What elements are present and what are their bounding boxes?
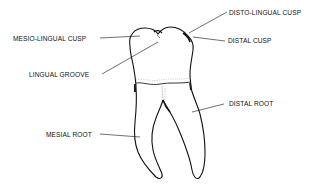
label-mesial-root: MESIAL ROOT [46,132,92,139]
cervical-line [136,82,191,85]
label-distal-cusp: DISTAL CUSP [228,38,272,45]
leader-disto-lingual-cusp [189,12,227,33]
tooth-diagram: DISTO-LINGUAL CUSP MESIO-LINGUAL CUSP DI… [0,0,316,194]
label-disto-lingual-cusp: DISTO-LINGUAL CUSP [229,10,301,17]
label-lingual-groove: LINGUAL GROOVE [29,72,89,79]
distal-root-outline [163,88,205,179]
mesial-root-outline [134,88,163,178]
leader-distal-cusp [193,37,225,41]
tooth-illustration [0,0,316,194]
label-distal-root: DISTAL ROOT [229,101,273,108]
label-mesio-lingual-cusp: MESIO-LINGUAL CUSP [13,36,86,43]
crown-mesial-outline [130,46,136,88]
leader-mesial-root [100,134,140,137]
leader-mesio-lingual-cusp [100,36,140,38]
